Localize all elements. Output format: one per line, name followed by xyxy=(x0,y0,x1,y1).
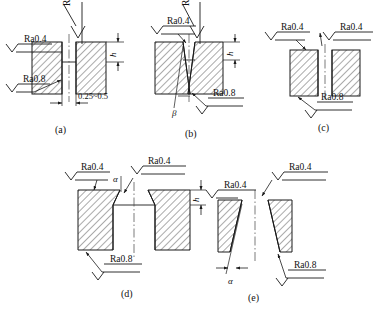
figure-a-caption: (a) xyxy=(55,124,66,135)
surface-roughness-checkmark-icon xyxy=(196,106,208,114)
surface-roughness-checkmark-icon xyxy=(151,26,163,34)
figure-c-section-right xyxy=(332,50,360,96)
figure-c: Ra0.4 Ra0.4 Ra0.8 xyxy=(265,22,373,118)
figure-e-roughness-bottom: Ra0.8 xyxy=(276,254,326,286)
figure-d-roughness-bottom: Ra0.8 xyxy=(86,252,142,280)
surface-roughness-checkmark-icon xyxy=(265,32,277,40)
figure-d-angle-alpha: α xyxy=(113,174,121,192)
figure-c-ra-left-label: Ra0.4 xyxy=(281,22,304,32)
figure-c-ra-bottom-label: Ra0.8 xyxy=(321,92,344,102)
figure-a-section-right xyxy=(76,42,106,94)
figure-d-ra-right-label: Ra0.4 xyxy=(148,156,171,166)
figure-b-height-label: h xyxy=(225,51,235,56)
surface-roughness-checkmark-icon xyxy=(190,26,204,38)
figure-d-roughness-right: Ra0.4 xyxy=(124,156,186,193)
surface-roughness-checkmark-icon xyxy=(65,172,77,180)
figure-c-ra-right-label: Ra0.4 xyxy=(340,22,363,32)
figure-d-caption: (d) xyxy=(121,288,133,299)
figure-a-ra-left-label: Ra0.4 xyxy=(24,34,47,44)
figure-b-dim-height: h xyxy=(223,34,240,68)
figure-c-roughness-right: Ra0.4 xyxy=(320,22,373,46)
surface-roughness-checkmark-icon xyxy=(276,278,288,286)
figure-d-section-right xyxy=(148,190,190,250)
figure-d-section-left xyxy=(78,190,120,250)
figure-a-land-label: 0.25~0.5 xyxy=(78,91,108,101)
figure-b-caption: (b) xyxy=(185,128,197,139)
figure-e-roughness-left: Ra0.4 xyxy=(206,180,256,198)
surface-roughness-checkmark-icon xyxy=(71,26,85,38)
surface-roughness-checkmark-icon xyxy=(323,32,335,40)
figure-d-ra-bottom-label: Ra0.8 xyxy=(110,254,133,264)
surface-roughness-checkmark-icon xyxy=(305,110,317,118)
surface-roughness-checkmark-icon xyxy=(206,190,218,198)
surface-roughness-checkmark-icon xyxy=(272,172,284,180)
figure-b-ra-top-label: Ra0.4 xyxy=(181,0,191,6)
figure-a-height-label: h xyxy=(108,52,118,57)
drawing-sheet: Ra0.4 Ra0.4 Ra0.8 h xyxy=(0,0,377,311)
figure-b-ra-bottom-label: Ra0.8 xyxy=(213,88,236,98)
engineering-drawing-canvas: Ra0.4 Ra0.4 Ra0.8 h xyxy=(0,0,377,311)
figure-e-alpha-label: α xyxy=(228,276,233,286)
figure-e-ra-top-label: Ra0.4 xyxy=(289,162,312,172)
figure-e-ra-left-label: Ra0.4 xyxy=(224,180,247,190)
figure-c-section-left xyxy=(290,50,318,96)
surface-roughness-checkmark-icon xyxy=(131,166,143,174)
figure-d-ra-left-label: Ra0.4 xyxy=(81,162,104,172)
figure-a: Ra0.4 Ra0.4 Ra0.8 h xyxy=(6,0,124,106)
figure-b-section-right xyxy=(188,42,223,94)
figure-c-roughness-left: Ra0.4 xyxy=(265,22,310,50)
figure-d: Ra0.4 Ra0.4 α Ra0.8 h xyxy=(65,156,206,280)
figure-a-ra-bottom-label: Ra0.8 xyxy=(23,74,46,84)
figure-e-section-left xyxy=(218,200,242,252)
figure-e-ra-bottom-label: Ra0.8 xyxy=(294,260,317,270)
surface-roughness-checkmark-icon xyxy=(6,44,18,52)
figure-b-section-left xyxy=(155,42,190,94)
figure-e-section-right xyxy=(268,200,292,252)
figure-d-dim-height: h xyxy=(190,180,206,215)
figure-e-roughness-top: Ra0.4 xyxy=(262,162,328,196)
figure-d-alpha-label: α xyxy=(113,174,118,184)
figure-a-roughness-top-vertical: Ra0.4 xyxy=(62,0,85,44)
surface-roughness-checkmark-icon xyxy=(92,272,104,280)
surface-roughness-checkmark-icon xyxy=(6,84,18,92)
figure-c-caption: (c) xyxy=(318,122,329,133)
figure-b-beta-label: β xyxy=(171,108,177,118)
figure-a-ra-top-label: Ra0.4 xyxy=(62,0,72,6)
figure-b-ra-left-label: Ra0.4 xyxy=(167,16,190,26)
figure-d-height-label: h xyxy=(191,197,201,202)
figure-b: Ra0.4 Ra0.4 Ra0.8 h β xyxy=(151,0,244,118)
figure-e: Ra0.4 Ra0.4 Ra0.8 α xyxy=(206,162,328,286)
figure-a-dim-height: h xyxy=(106,33,124,71)
figure-d-roughness-left: Ra0.4 xyxy=(65,162,110,190)
figure-e-caption: (e) xyxy=(248,292,259,303)
